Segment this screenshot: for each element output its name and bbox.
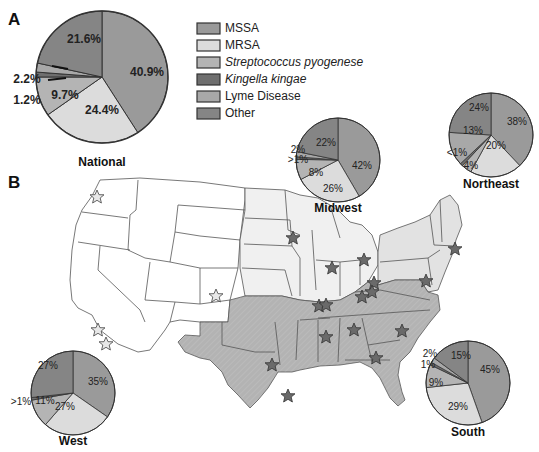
- legend-item: Streptococcus pyogenese: [197, 55, 363, 69]
- legend-item: Kingella kingae: [197, 72, 307, 86]
- pie-value-label: 1%: [421, 359, 436, 370]
- legend-label: Other: [225, 106, 255, 120]
- legend-swatch: [197, 91, 220, 102]
- legend-swatch: [197, 23, 220, 34]
- panel-b-label: B: [8, 173, 20, 192]
- pie-value-label: 27%: [38, 360, 58, 371]
- pie-value-label: 42%: [352, 160, 372, 171]
- pie-value-label: 9.7%: [51, 88, 79, 102]
- legend-label: Kingella kingae: [225, 72, 307, 86]
- pie-slice: [31, 351, 73, 398]
- pie-national: 40.9%24.4%9.7%1.2%2.2%21.6%National: [13, 11, 168, 169]
- legend-item: Other: [197, 106, 255, 120]
- pie-value-label: 4%: [464, 160, 479, 171]
- pie-value-label: 40.9%: [130, 65, 164, 79]
- pie-value-label: 35%: [88, 376, 108, 387]
- pie-west: 35%27%11%>1%27%West: [11, 351, 115, 448]
- legend-label: Streptococcus pyogenese: [225, 55, 363, 69]
- pie-title: Northeast: [463, 177, 519, 191]
- legend-label: Lyme Disease: [225, 89, 301, 103]
- pie-title: National: [78, 155, 125, 169]
- legend-swatch: [197, 57, 220, 68]
- pie-value-label: 2.2%: [13, 72, 41, 86]
- pie-value-label: 27%: [55, 401, 75, 412]
- pie-value-label: 45%: [480, 364, 500, 375]
- pie-value-label: 11%: [35, 395, 54, 406]
- pie-value-label: 26%: [323, 183, 343, 194]
- pie-title: West: [59, 434, 87, 448]
- pie-value-label: 24.4%: [85, 103, 119, 117]
- pie-value-label: 15%: [451, 350, 471, 361]
- pie-value-label: <1%: [447, 147, 467, 158]
- legend-label: MSSA: [225, 21, 259, 35]
- region-northeast: [378, 195, 462, 292]
- pie-south: 45%29%9%1%2%15%South: [421, 341, 510, 439]
- legend: MSSAMRSAStreptococcus pyogeneseKingella …: [197, 21, 363, 120]
- legend-item: MSSA: [197, 21, 259, 35]
- pie-value-label: 2%: [423, 348, 438, 359]
- legend-swatch: [197, 40, 220, 51]
- pie-northeast: 38%20%4%<1%13%24%Northeast: [447, 93, 533, 191]
- pie-value-label: 13%: [463, 125, 483, 136]
- legend-label: MRSA: [225, 38, 260, 52]
- figure: A B: [0, 0, 539, 452]
- pie-value-label: 22%: [316, 137, 336, 148]
- legend-item: MRSA: [197, 38, 260, 52]
- legend-swatch: [197, 108, 220, 119]
- pie-value-label: 29%: [448, 401, 468, 412]
- pie-title: Midwest: [314, 201, 361, 215]
- pie-value-label: 1.2%: [13, 93, 41, 107]
- pie-value-label: 38%: [507, 116, 527, 127]
- pie-value-label: 9%: [429, 377, 444, 388]
- pie-value-label: 8%: [309, 167, 324, 178]
- pie-value-label: 21.6%: [67, 32, 101, 46]
- panel-a-label: A: [8, 10, 20, 29]
- pie-value-label: >1%: [288, 154, 308, 165]
- us-map: [70, 178, 462, 408]
- pie-title: South: [451, 425, 485, 439]
- pie-value-label: >1%: [11, 396, 31, 407]
- pie-value-label: 20%: [486, 140, 506, 151]
- pie-value-label: 2%: [291, 144, 306, 155]
- legend-item: Lyme Disease: [197, 89, 301, 103]
- pie-value-label: 24%: [469, 102, 489, 113]
- legend-swatch: [197, 74, 220, 85]
